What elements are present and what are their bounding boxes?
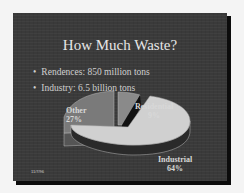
label-other: Other 27% <box>66 106 86 124</box>
slide: How Much Waste? •Rendences: 850 million … <box>13 13 227 181</box>
pie-chart <box>13 13 227 181</box>
label-industrial: Industrial 64% <box>158 155 192 173</box>
label-residential: Residential 9% <box>135 102 173 120</box>
slide-footer-date: 11/7/96 <box>31 169 44 174</box>
